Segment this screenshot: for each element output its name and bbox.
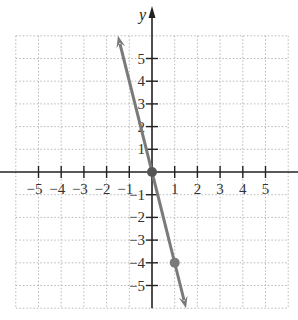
- x-tick-label: 4: [239, 181, 247, 197]
- data-point: [170, 258, 180, 268]
- x-tick-label: −3: [72, 181, 88, 197]
- y-axis-arrow-icon: [149, 6, 156, 18]
- coordinate-plane: −5−4−3−2−112345 54321−1−2−3−4−5 y: [0, 0, 298, 320]
- x-tick-label: −4: [49, 181, 65, 197]
- y-tick-label: 4: [138, 73, 146, 89]
- y-axis-label: y: [137, 6, 147, 24]
- x-tick-label: 1: [171, 181, 179, 197]
- x-tick-label: 5: [262, 181, 270, 197]
- y-tick-label: −2: [129, 209, 145, 225]
- x-tick-label: −5: [27, 181, 43, 197]
- y-tick-label: 3: [138, 96, 146, 112]
- y-tick-label: −5: [129, 278, 145, 294]
- x-tick-label: 2: [194, 181, 202, 197]
- y-tick-label: −3: [129, 232, 145, 248]
- y-tick-label: −1: [129, 187, 145, 203]
- y-tick-label: 5: [138, 51, 146, 67]
- data-point: [147, 167, 157, 177]
- x-tick-label: −2: [95, 181, 111, 197]
- y-tick-label: −4: [129, 255, 145, 271]
- x-tick-label: 3: [216, 181, 224, 197]
